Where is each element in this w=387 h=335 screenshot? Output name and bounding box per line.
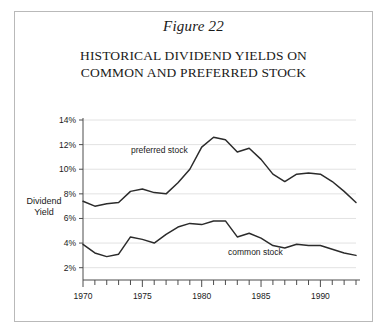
y-tick-label: 4% [64, 238, 77, 248]
series-line-preferred-stock [83, 137, 356, 206]
x-tick-label: 1990 [311, 291, 330, 301]
y-tick-label: 14% [59, 115, 76, 125]
series-label-common-stock: common stock [228, 247, 283, 257]
x-axis-ticks: 19701975198019851990 [74, 280, 356, 301]
y-tick-label: 12% [59, 140, 76, 150]
x-tick-label: 1985 [252, 291, 271, 301]
x-tick-label: 1970 [74, 291, 93, 301]
axes-group [83, 118, 360, 280]
figure-container: Figure 22 HISTORICAL DIVIDEND YIELDS ON … [0, 0, 387, 335]
x-tick-label: 1980 [192, 291, 211, 301]
y-tick-label: 2% [64, 263, 77, 273]
series-line-common-stock [83, 221, 356, 257]
data-series-group [83, 137, 356, 256]
y-axis-title-line-2: Yield [18, 207, 70, 218]
series-label-preferred-stock: preferred stock [131, 145, 188, 155]
chart-plot: 2%4%6%8%10%12%14% 19701975198019851990 [0, 0, 387, 335]
y-tick-label: 10% [59, 164, 76, 174]
y-axis-title: Dividend Yield [18, 196, 70, 218]
y-axis-ticks: 2%4%6%8%10%12%14% [59, 115, 83, 273]
y-axis-title-line-1: Dividend [18, 196, 70, 207]
x-tick-label: 1975 [133, 291, 152, 301]
